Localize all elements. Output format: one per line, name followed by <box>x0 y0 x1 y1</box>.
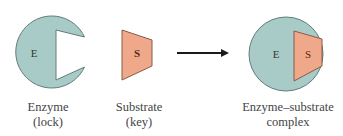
complex-label-line2: complex <box>236 115 340 130</box>
enzyme-label: Enzyme (lock) <box>10 100 86 130</box>
substrate-label-line1: Substrate <box>104 100 174 115</box>
substrate-label: Substrate (key) <box>104 100 174 130</box>
complex-substrate-symbol: S <box>305 48 311 60</box>
enzyme-label-line1: Enzyme <box>10 100 86 115</box>
reaction-arrow <box>177 49 229 57</box>
complex-label: Enzyme–substrate complex <box>236 100 340 130</box>
enzyme-symbol: E <box>31 47 38 59</box>
substrate-label-line2: (key) <box>104 115 174 130</box>
substrate-symbol: S <box>134 47 140 59</box>
substrate-key: S <box>122 30 152 80</box>
enzyme-shape <box>16 16 85 88</box>
complex-enzyme-symbol: E <box>273 48 280 60</box>
enzyme-lock: E <box>16 16 85 88</box>
enzyme-label-line2: (lock) <box>10 115 86 130</box>
enzyme-substrate-complex: E S <box>249 17 323 91</box>
complex-label-line1: Enzyme–substrate <box>236 100 340 115</box>
